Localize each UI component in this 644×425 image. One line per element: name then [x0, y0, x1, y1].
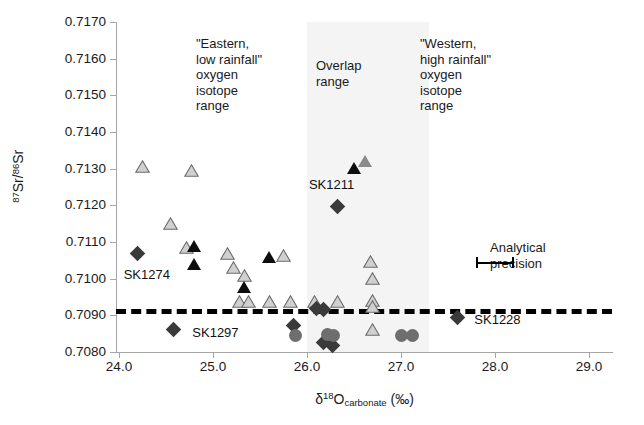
- data-point-grey-circle: [406, 329, 419, 342]
- y-tick-mark: [110, 22, 116, 23]
- reference-baseline: [116, 309, 612, 314]
- x-tick-mark: [401, 352, 402, 358]
- data-point-dark-diamond: [311, 303, 322, 314]
- y-axis-line: [116, 22, 117, 353]
- x-tick-label: 29.0: [559, 359, 619, 374]
- x-tick-mark: [119, 352, 120, 358]
- y-tick-mark: [110, 132, 116, 133]
- data-point-grey-circle: [289, 329, 302, 342]
- data-point-dark-diamond: [168, 324, 179, 335]
- y-tick-mark: [110, 315, 116, 316]
- y-axis-suffix: Sr: [10, 150, 26, 164]
- data-point-dark-diamond: [452, 312, 463, 323]
- y-tick-label: 0.7080: [42, 345, 106, 359]
- y-tick-label: 0.7140: [42, 125, 106, 139]
- y-tick-label: 0.7110: [42, 235, 106, 249]
- y-tick-label: 0.7090: [42, 308, 106, 322]
- y-tick-mark: [110, 242, 116, 243]
- y-tick-mark: [110, 352, 116, 353]
- x-tick-mark: [589, 352, 590, 358]
- y-tick-mark: [110, 169, 116, 170]
- y-tick-mark: [110, 95, 116, 96]
- x-tick-mark: [213, 352, 214, 358]
- data-point-filled-triangle: [347, 162, 361, 174]
- y-tick-label: 0.7130: [42, 162, 106, 176]
- point-label-sk1274: SK1274: [124, 267, 170, 282]
- y-tick-label: 0.7170: [42, 15, 106, 29]
- data-point-dark-diamond: [332, 201, 343, 212]
- x-tick-label: 28.0: [465, 359, 525, 374]
- y-tick-label: 0.7100: [42, 272, 106, 286]
- data-point-filled-triangle: [237, 281, 251, 293]
- x-tick-mark: [495, 352, 496, 358]
- x-axis-sub-carbonate: carbonate: [344, 397, 386, 408]
- y-axis-mid: Sr/: [10, 174, 26, 192]
- point-label-sk1211: SK1211: [309, 177, 354, 192]
- y-axis-title: 87Sr/86Sr: [10, 106, 27, 246]
- data-point-filled-triangle: [187, 240, 201, 252]
- x-axis-delta: δ: [315, 391, 323, 407]
- y-axis-sup-86: 86: [10, 164, 21, 175]
- x-axis-unit: (‰): [391, 391, 414, 407]
- y-tick-label: 0.7150: [42, 88, 106, 102]
- data-point-grey-circle: [321, 328, 334, 341]
- point-label-sk1228: SK1228: [474, 312, 520, 327]
- data-point-filled-triangle: [187, 258, 201, 270]
- x-axis-o: O: [334, 391, 345, 407]
- x-tick-label: 27.0: [371, 359, 431, 374]
- x-tick-label: 25.0: [183, 359, 243, 374]
- annotation-western-range: "Western, high rainfall" oxygen isotope …: [420, 36, 530, 114]
- x-axis-line: [116, 352, 613, 353]
- y-tick-mark: [110, 279, 116, 280]
- y-tick-mark: [110, 205, 116, 206]
- y-axis-sup-87: 87: [10, 192, 21, 203]
- annotation-overlap-range: Overlap range: [316, 58, 396, 89]
- annotation-eastern-range: "Eastern, low rainfall" oxygen isotope r…: [196, 36, 301, 114]
- data-point-dark-diamond: [132, 248, 143, 259]
- y-tick-mark: [110, 59, 116, 60]
- x-axis-sup-18: 18: [323, 390, 334, 401]
- x-axis-title: δ18Ocarbonate (‰): [116, 390, 613, 408]
- isotope-scatter-figure: 0.71700.71600.71500.71400.71300.71200.71…: [0, 0, 644, 425]
- analytical-precision-errorbar: [476, 257, 514, 268]
- y-tick-label: 0.7160: [42, 52, 106, 66]
- x-tick-mark: [307, 352, 308, 358]
- x-tick-label: 26.0: [277, 359, 337, 374]
- y-tick-label: 0.7120: [42, 198, 106, 212]
- point-label-sk1297: SK1297: [192, 325, 238, 340]
- x-tick-label: 24.0: [89, 359, 149, 374]
- data-point-filled-triangle: [262, 251, 276, 263]
